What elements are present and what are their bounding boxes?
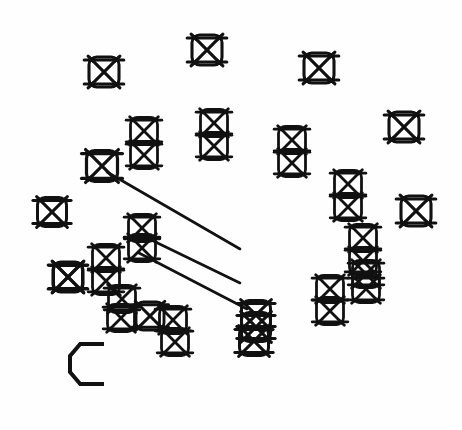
glyph-anchor-mid-b — [124, 234, 160, 263]
glyph-stack-right-d — [348, 275, 384, 304]
glyph-left-block — [48, 261, 88, 293]
glyph-chain-b — [88, 267, 124, 296]
glyph-chain-g — [157, 328, 193, 357]
glyph-right-col-b — [330, 193, 366, 222]
glyph-left-edge-a — [33, 197, 71, 228]
glyph-top-center — [187, 34, 227, 66]
glyph-mid-center-b — [196, 132, 232, 161]
diagram-canvas — [0, 0, 462, 430]
glyph-chain-e — [132, 301, 169, 331]
glyph-top-right — [299, 52, 339, 84]
glyph-far-right-mid — [396, 195, 436, 227]
glyph-mid-right-b — [274, 149, 310, 178]
glyph-anchor-upper — [82, 150, 123, 183]
glyph-lower-right-b — [312, 297, 348, 326]
glyph-cluster-c — [235, 326, 273, 357]
glyph-upper-right-far — [384, 111, 424, 143]
glyph-top-left — [84, 56, 124, 88]
glyph-mid-left-b — [126, 141, 162, 170]
diagram-svg — [0, 0, 462, 430]
